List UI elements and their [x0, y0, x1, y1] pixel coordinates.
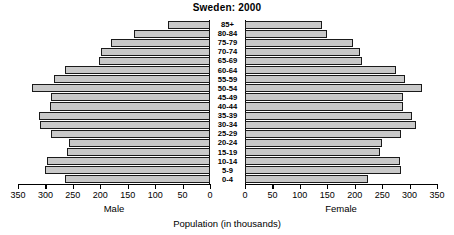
bar-female-55-59 [245, 75, 405, 83]
bar-female-5-9 [245, 166, 401, 174]
axis-tick-150 [128, 184, 129, 189]
age-label-5-9: 5-9 [210, 166, 245, 175]
age-label-40-44: 40-44 [210, 102, 245, 111]
tick-label-350: 350 [10, 190, 25, 201]
female-axis-line [245, 184, 437, 185]
tick-label-250: 250 [375, 190, 390, 201]
bar-female-40-44 [245, 102, 403, 110]
bar-female-75-79 [245, 39, 353, 47]
age-label-85+: 85+ [210, 20, 245, 29]
bar-female-60-64 [245, 66, 396, 74]
axis-tick-100 [300, 184, 301, 189]
bar-row [18, 20, 210, 29]
age-group-axis: 85+80-8475-7970-7465-6960-6455-5950-5445… [210, 20, 245, 184]
bar-row [245, 66, 437, 75]
age-label-65-69: 65-69 [210, 56, 245, 65]
tick-label-300: 300 [402, 190, 417, 201]
bar-row [245, 38, 437, 47]
tick-label-100: 100 [292, 190, 307, 201]
bar-row [18, 102, 210, 111]
bar-row [18, 66, 210, 75]
bar-row [18, 93, 210, 102]
male-tick-labels: 350300250200150100500 [18, 190, 210, 202]
bar-row [245, 129, 437, 138]
bar-row [18, 138, 210, 147]
bar-male-60-64 [65, 66, 210, 74]
axis-tick-300 [410, 184, 411, 189]
age-label-70-74: 70-74 [210, 47, 245, 56]
age-label-75-79: 75-79 [210, 38, 245, 47]
bar-row [18, 75, 210, 84]
female-bar-rows [245, 20, 437, 184]
axis-tick-300 [45, 184, 46, 189]
bar-row [18, 157, 210, 166]
tick-label-250: 250 [65, 190, 80, 201]
bar-male-30-34 [40, 121, 210, 129]
bar-row [245, 93, 437, 102]
bar-row [245, 84, 437, 93]
bar-row [18, 129, 210, 138]
bar-male-25-29 [51, 130, 210, 138]
bar-female-35-39 [245, 112, 412, 120]
age-label-15-19: 15-19 [210, 148, 245, 157]
axis-tick-0 [210, 184, 211, 189]
bar-female-25-29 [245, 130, 401, 138]
tick-label-150: 150 [120, 190, 135, 201]
bar-row [245, 138, 437, 147]
female-tick-labels: 050100150200250300350 [245, 190, 437, 202]
bar-row [245, 166, 437, 175]
bar-female-30-34 [245, 121, 416, 129]
axis-tick-50 [272, 184, 273, 189]
bar-row [245, 148, 437, 157]
bar-row [18, 148, 210, 157]
bar-row [245, 175, 437, 184]
bar-male-10-14 [47, 157, 210, 165]
age-label-10-14: 10-14 [210, 157, 245, 166]
female-axis-caption: Female [245, 203, 437, 215]
bar-row [245, 120, 437, 129]
male-bar-rows [18, 20, 210, 184]
axis-tick-200 [355, 184, 356, 189]
age-label-45-49: 45-49 [210, 93, 245, 102]
bar-row [18, 84, 210, 93]
bar-female-10-14 [245, 157, 400, 165]
axis-tick-0 [245, 184, 246, 189]
bar-row [18, 47, 210, 56]
male-panel [18, 20, 210, 184]
tick-label-200: 200 [347, 190, 362, 201]
bar-row [245, 102, 437, 111]
bar-male-5-9 [45, 166, 210, 174]
bar-female-65-69 [245, 57, 362, 65]
population-pyramid-chart: Sweden: 2000 85+80-8475-7970-7465-6960-6… [0, 0, 454, 235]
axis-tick-50 [183, 184, 184, 189]
age-label-80-84: 80-84 [210, 29, 245, 38]
bar-row [245, 29, 437, 38]
axis-tick-150 [327, 184, 328, 189]
bar-female-15-19 [245, 148, 380, 156]
axis-tick-350 [18, 184, 19, 189]
bar-male-50-54 [32, 84, 210, 92]
bar-male-0-4 [65, 175, 210, 183]
bar-male-85+ [168, 21, 210, 29]
age-label-25-29: 25-29 [210, 129, 245, 138]
bar-row [245, 56, 437, 65]
bar-female-50-54 [245, 84, 422, 92]
age-label-60-64: 60-64 [210, 66, 245, 75]
bar-male-70-74 [101, 48, 210, 56]
bar-female-45-49 [245, 93, 403, 101]
tick-label-50: 50 [267, 190, 277, 201]
bar-row [18, 38, 210, 47]
bar-male-80-84 [134, 30, 210, 38]
axis-tick-100 [155, 184, 156, 189]
bar-male-20-24 [69, 139, 210, 147]
bar-male-45-49 [51, 93, 210, 101]
age-label-35-39: 35-39 [210, 111, 245, 120]
bar-row [18, 166, 210, 175]
age-label-20-24: 20-24 [210, 138, 245, 147]
tick-label-100: 100 [148, 190, 163, 201]
bar-male-40-44 [50, 102, 210, 110]
tick-label-0: 0 [242, 190, 247, 201]
tick-label-50: 50 [178, 190, 188, 201]
bar-female-70-74 [245, 48, 360, 56]
axis-tick-350 [437, 184, 438, 189]
